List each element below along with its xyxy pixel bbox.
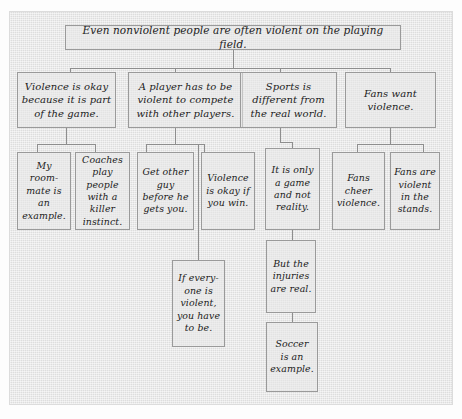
node-roommate-example-label: My room-mate is an example.: [21, 160, 67, 222]
node-fans-cheer-violence-label: Fans cheer violence.: [336, 172, 381, 209]
node-sports-different-label: Sports is different from the real world.: [244, 80, 333, 120]
connector-drop-l3-6: [357, 144, 358, 152]
connector-drop-l4-1: [198, 144, 199, 260]
connector-bus-l2-1: [37, 144, 95, 145]
node-fans-violent-in-stands[interactable]: Fans are violent in the stands.: [390, 152, 440, 230]
node-okay-if-you-win[interactable]: Violence is okay if you win.: [201, 152, 255, 230]
node-roommate-example[interactable]: My room-mate is an example.: [17, 152, 71, 230]
node-coaches-killer-instinct-label: Coaches play people with a killer instin…: [79, 154, 126, 228]
node-soccer-example[interactable]: Soccer is an example.: [266, 322, 318, 392]
connector-level2-bus: [70, 68, 390, 69]
node-injuries-are-real-label: But the injuries are real.: [270, 258, 312, 295]
node-get-other-guy[interactable]: Get other guy before he gets you.: [137, 152, 194, 230]
node-fans-violent-in-stands-label: Fans are violent in the stands.: [394, 166, 436, 216]
node-player-must-be-violent[interactable]: A player has to be violent to compete wi…: [128, 72, 243, 128]
node-fans-want-violence-label: Fans want violence.: [349, 87, 432, 113]
node-if-everyone-is-violent-label: If every-one is violent, you have to be.: [176, 272, 221, 334]
connector-root-stem: [233, 50, 234, 68]
connector-l3-5-to-l4-2: [292, 230, 293, 240]
node-root[interactable]: Even nonviolent people are often violent…: [65, 25, 401, 50]
node-get-other-guy-label: Get other guy before he gets you.: [141, 166, 190, 216]
connector-drop-l3-3: [146, 144, 147, 152]
node-root-label: Even nonviolent people are often violent…: [69, 24, 397, 52]
node-player-must-be-violent-label: A player has to be violent to compete wi…: [132, 80, 239, 120]
node-if-everyone-is-violent[interactable]: If every-one is violent, you have to be.: [172, 260, 225, 347]
connector-drop-l3-7: [423, 144, 424, 152]
connector-bus-l2-3: [280, 142, 292, 143]
connector-drop-l3-4: [204, 144, 205, 152]
concept-map-panel: Even nonviolent people are often violent…: [10, 12, 452, 404]
node-violence-is-okay[interactable]: Violence is okay because it is part of t…: [17, 72, 116, 128]
node-only-a-game-label: It is only a game and not reality.: [269, 164, 316, 214]
node-fans-cheer-violence[interactable]: Fans cheer violence.: [332, 152, 385, 230]
node-okay-if-you-win-label: Violence is okay if you win.: [205, 172, 251, 209]
node-violence-is-okay-label: Violence is okay because it is part of t…: [21, 80, 112, 120]
connector-bus-l2-2: [146, 144, 204, 145]
node-only-a-game[interactable]: It is only a game and not reality.: [265, 148, 320, 230]
connector-stem-l2-2: [175, 128, 176, 144]
screenshot-canvas: Even nonviolent people are often violent…: [0, 0, 462, 419]
node-sports-different[interactable]: Sports is different from the real world.: [240, 72, 337, 128]
node-soccer-example-label: Soccer is an example.: [270, 338, 314, 375]
connector-stem-l2-4: [390, 128, 391, 144]
connector-l4-2-to-l5-1: [292, 313, 293, 322]
connector-drop-l3-1: [37, 144, 38, 152]
connector-bus-l2-4: [357, 144, 423, 145]
node-fans-want-violence[interactable]: Fans want violence.: [345, 72, 436, 128]
node-injuries-are-real[interactable]: But the injuries are real.: [266, 240, 316, 313]
connector-stem-l2-3: [280, 128, 281, 142]
node-coaches-killer-instinct[interactable]: Coaches play people with a killer instin…: [75, 152, 130, 230]
connector-drop-l3-2: [95, 144, 96, 152]
connector-stem-l2-1: [66, 128, 67, 144]
